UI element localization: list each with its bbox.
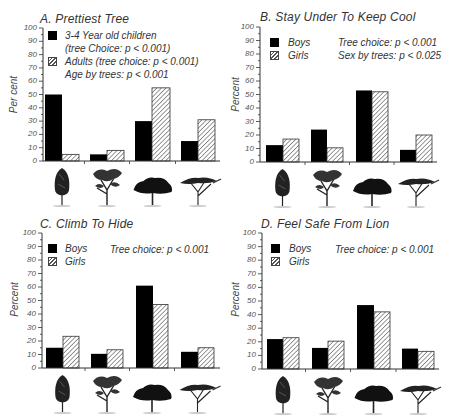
y-tick-label: 80 <box>234 256 256 264</box>
bar-series2 <box>283 139 299 162</box>
columnar-tree-icon <box>274 376 292 415</box>
dense-canopy-tree-icon <box>353 178 392 208</box>
bar-series1 <box>400 150 416 162</box>
y-tick-label: 20 <box>234 338 256 346</box>
y-tick-label: 90 <box>234 243 256 251</box>
panel-title: B. Stay Under To Keep Cool <box>260 10 416 24</box>
legend-sublabel: (tree Choice: p < 0.001) <box>65 43 170 54</box>
bar-series1 <box>267 339 283 369</box>
bar-series1 <box>266 145 283 162</box>
stat-annotation: Sex by trees: p < 0.025 <box>338 50 441 61</box>
dense-canopy-tree-icon <box>133 384 172 414</box>
y-tick-label: 80 <box>232 50 254 58</box>
y-tick-label: 0 <box>15 157 37 165</box>
bar-series1 <box>45 95 62 162</box>
legend-swatch-solid <box>271 244 280 253</box>
bar-series1 <box>311 130 327 162</box>
y-tick-label: 90 <box>14 243 36 251</box>
columnar-tree-icon <box>54 375 72 414</box>
bar-series1 <box>357 305 374 369</box>
broad-tree-icon <box>93 169 122 207</box>
panel-title: D. Feel Safe From Lion <box>261 217 389 231</box>
bar-series1 <box>312 348 328 369</box>
legend-label: Boys <box>289 243 311 254</box>
bar-series2 <box>107 150 124 161</box>
bar-series2 <box>416 135 432 162</box>
y-tick-label: 80 <box>15 51 37 59</box>
y-tick-label: 20 <box>15 130 37 138</box>
dense-canopy-tree-icon <box>134 177 173 207</box>
stat-annotation: Tree choice: p < 0.001 <box>335 244 434 255</box>
panel-title: C. Climb To Hide <box>40 217 133 231</box>
y-tick-label: 0 <box>234 365 256 373</box>
legend-swatch-hatched <box>48 57 57 66</box>
legend-label: Boys <box>65 243 87 254</box>
y-tick-label: 10 <box>232 145 254 153</box>
bar-series2 <box>327 148 343 162</box>
legend-label: Boys <box>288 37 310 48</box>
legend-label: Girls <box>65 256 86 267</box>
y-axis-label: Per cent <box>8 70 19 120</box>
legend-swatch-solid <box>48 244 57 253</box>
legend-label: Adults (tree choice: p < 0.001) <box>65 56 199 67</box>
legend-label: Girls <box>288 50 309 61</box>
legend-swatch-hatched <box>270 51 279 60</box>
legend-label: 3-4 Year old children <box>65 30 157 41</box>
bar-series1 <box>90 154 107 161</box>
y-tick-label: 0 <box>232 158 254 166</box>
legend-sublabel: Age by trees: p < 0.001 <box>65 69 169 80</box>
y-tick-label: 100 <box>15 24 37 32</box>
y-tick-label: 20 <box>14 337 36 345</box>
legend-swatch-hatched <box>271 257 280 266</box>
broad-tree-icon <box>314 377 343 415</box>
y-tick-label: 10 <box>234 351 256 359</box>
y-axis-label: Percent <box>9 275 20 325</box>
bar-series2 <box>198 348 214 368</box>
bar-series2 <box>107 350 123 368</box>
bar-series1 <box>135 121 152 161</box>
bar-series2 <box>198 120 215 161</box>
y-tick-label: 30 <box>234 324 256 332</box>
legend-swatch-solid <box>270 38 279 47</box>
y-tick-label: 100 <box>14 229 36 237</box>
y-tick-label: 30 <box>14 324 36 332</box>
bar-series2 <box>283 338 299 369</box>
bar-series1 <box>136 286 153 368</box>
panel-title: A. Prettiest Tree <box>40 12 129 26</box>
bar-series1 <box>181 141 198 161</box>
y-tick-label: 80 <box>14 256 36 264</box>
y-tick-label: 10 <box>15 144 37 152</box>
bar-series2 <box>328 341 344 369</box>
bar-series1 <box>46 348 63 368</box>
y-axis-label: Percent <box>230 275 241 325</box>
legend-label: Girls <box>289 256 310 267</box>
bar-series1 <box>181 352 198 368</box>
stat-annotation: Tree choice: p < 0.001 <box>338 37 437 48</box>
bar-series1 <box>91 354 107 368</box>
y-tick-label: 0 <box>14 364 36 372</box>
acacia-tree-icon <box>400 385 441 415</box>
columnar-tree-icon <box>274 169 292 208</box>
acacia-tree-icon <box>180 177 221 207</box>
y-tick-label: 100 <box>232 23 254 31</box>
y-tick-label: 10 <box>14 351 36 359</box>
bar-series1 <box>402 349 418 369</box>
columnar-tree-icon <box>53 168 71 207</box>
broad-tree-icon <box>93 376 122 414</box>
legend-swatch-solid <box>48 31 57 40</box>
y-axis-label: Percent <box>230 70 241 120</box>
bar-series2 <box>63 336 79 368</box>
bar-series2 <box>418 351 434 369</box>
bar-series2 <box>62 154 79 161</box>
y-tick-label: 20 <box>232 131 254 139</box>
broad-tree-icon <box>313 170 342 208</box>
y-tick-label: 90 <box>15 37 37 45</box>
stat-annotation: Tree choice: p < 0.001 <box>110 244 209 255</box>
bar-series2 <box>372 92 388 162</box>
bar-series1 <box>356 90 372 162</box>
bar-series2 <box>374 312 390 369</box>
bar-series2 <box>153 305 168 368</box>
legend-swatch-hatched <box>48 257 57 266</box>
y-tick-label: 100 <box>234 229 256 237</box>
dense-canopy-tree-icon <box>355 385 394 415</box>
